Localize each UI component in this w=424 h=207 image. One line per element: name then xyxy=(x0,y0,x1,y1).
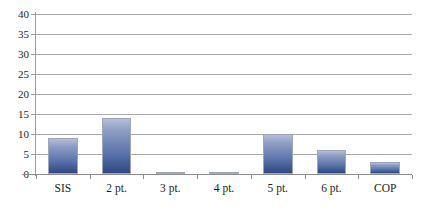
bar-chart: 40 35 30 25 20 15 10 5 0 SIS2 xyxy=(0,0,424,207)
x-axis-tick xyxy=(358,175,359,179)
x-axis-tick xyxy=(197,175,198,179)
bar-slot xyxy=(305,14,359,174)
bar-slot xyxy=(36,14,90,174)
bar-slot xyxy=(90,14,144,174)
y-axis-tick-label: 10 xyxy=(3,129,29,140)
bar xyxy=(102,118,132,174)
bar-slot xyxy=(251,14,305,174)
y-axis-labels: 40 35 30 25 20 15 10 5 0 xyxy=(0,0,29,207)
bar xyxy=(263,134,293,174)
bar-slot xyxy=(197,14,251,174)
x-axis-tick-label: 5 pt. xyxy=(251,182,305,206)
y-axis-tick-label: 15 xyxy=(3,109,29,120)
x-axis-labels: SIS2 pt.3 pt.4 pt.5 pt.6 pt.COP xyxy=(36,182,412,206)
bar-slot xyxy=(143,14,197,174)
x-axis-tick-label: 6 pt. xyxy=(305,182,359,206)
bar-series xyxy=(36,14,412,174)
y-axis-tick-label: 25 xyxy=(3,69,29,80)
y-axis-tick-label: 20 xyxy=(3,89,29,100)
x-axis-tick-label: COP xyxy=(358,182,412,206)
x-axis-tick xyxy=(305,175,306,179)
bar xyxy=(370,162,400,174)
y-axis-tick-label: 5 xyxy=(3,149,29,160)
x-axis-tick-label: SIS xyxy=(36,182,90,206)
x-axis-tick-label: 3 pt. xyxy=(143,182,197,206)
x-axis-tick xyxy=(143,175,144,179)
x-axis-tick xyxy=(90,175,91,179)
y-axis-tick-label: 30 xyxy=(3,49,29,60)
x-axis-tick-label: 2 pt. xyxy=(90,182,144,206)
bar-slot xyxy=(358,14,412,174)
bar xyxy=(209,172,239,174)
bar xyxy=(48,138,78,174)
x-axis-tick-label: 4 pt. xyxy=(197,182,251,206)
x-axis-tick-marks xyxy=(36,175,412,180)
x-axis-tick xyxy=(36,175,37,179)
bar xyxy=(156,172,186,174)
y-axis-tick-label: 40 xyxy=(3,9,29,20)
x-axis-tick xyxy=(251,175,252,179)
y-axis-tick-label: 35 xyxy=(3,29,29,40)
bar xyxy=(317,150,347,174)
x-axis-tick xyxy=(412,175,413,179)
